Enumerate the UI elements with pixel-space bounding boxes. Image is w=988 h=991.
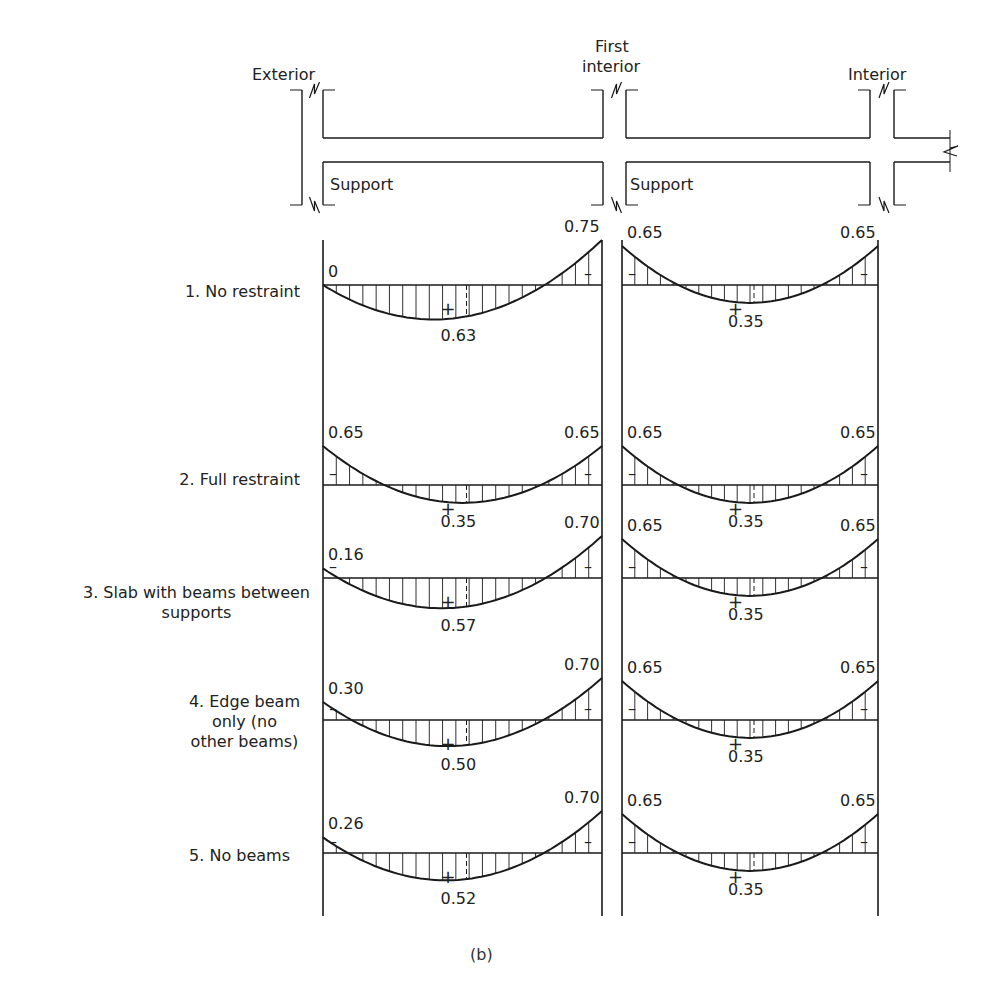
case-1-end-span-mid-value: 0.63	[441, 326, 477, 345]
break-symbol-icon	[944, 146, 958, 156]
case-3-end-span-end-value: 0.70	[564, 513, 600, 532]
negative-sign-icon: –	[628, 832, 636, 851]
moment-diagram-figure: ExteriorFirstinteriorInteriorSupportSupp…	[0, 0, 988, 991]
moment-diagram-svg: ExteriorFirstinteriorInteriorSupportSupp…	[0, 0, 988, 991]
case-1-interior-span-start-value: 0.65	[627, 223, 663, 242]
case-label-line: 4. Edge beam	[189, 692, 300, 712]
case-4-interior-span-mid-value: 0.35	[728, 747, 764, 766]
label-first-interior: interior	[582, 57, 641, 76]
case-1-diagram: +–00.750.63+––0.650.650.35	[323, 217, 878, 345]
negative-sign-icon: –	[329, 464, 337, 483]
positive-sign-icon: +	[441, 866, 456, 887]
case-5-end-span-end-value: 0.70	[564, 788, 600, 807]
negative-sign-icon: –	[584, 464, 592, 483]
case-3-interior-span-end-value: 0.65	[840, 516, 876, 535]
case-5-end-span-hatching	[336, 822, 588, 880]
case-3-interior-span-start-value: 0.65	[627, 516, 663, 535]
case-4-end-span-start-value: 0.30	[328, 679, 364, 698]
label-exterior: Exterior	[252, 65, 316, 84]
break-symbol-icon	[290, 82, 335, 98]
case-5-interior-span-start-value: 0.65	[627, 791, 663, 810]
case-label-line: only (no	[189, 712, 300, 732]
case-3-label: 3. Slab with beams betweensupports	[83, 583, 310, 623]
label-first-interior: First	[595, 37, 629, 56]
case-2-end-span-start-value: 0.65	[328, 423, 364, 442]
case-3-interior-span-mid-value: 0.35	[728, 605, 764, 624]
positive-sign-icon: +	[441, 298, 456, 319]
case-4-label: 4. Edge beamonly (noother beams)	[189, 692, 300, 752]
case-label-line: 2. Full restraint	[179, 470, 300, 490]
case-2-end-span-moment-curve	[323, 446, 602, 503]
case-4-end-span-moment-curve	[323, 678, 602, 746]
case-2-interior-span-end-value: 0.65	[840, 423, 876, 442]
negative-sign-icon: –	[628, 464, 636, 483]
case-1-interior-span-end-value: 0.65	[840, 223, 876, 242]
case-label-line: 3. Slab with beams between	[83, 583, 310, 603]
case-2-label: 2. Full restraint	[179, 470, 300, 490]
negative-sign-icon: –	[584, 699, 592, 718]
case-1-interior-span-mid-value: 0.35	[728, 312, 764, 331]
case-label-line: supports	[83, 603, 310, 623]
negative-sign-icon: –	[860, 557, 868, 576]
case-5-interior-span-mid-value: 0.35	[728, 880, 764, 899]
negative-sign-icon: –	[584, 832, 592, 851]
case-label-line: 1. No restraint	[185, 282, 300, 302]
case-2-end-span-mid-value: 0.35	[441, 512, 477, 531]
case-2-interior-span-mid-value: 0.35	[728, 512, 764, 531]
positive-sign-icon: +	[441, 733, 456, 754]
case-3-end-span-mid-value: 0.57	[441, 616, 477, 635]
moment-diagrams: +–00.750.63+––0.650.650.35+––0.650.650.3…	[323, 217, 878, 916]
label-interior: Interior	[848, 65, 907, 84]
break-symbol-icon	[591, 82, 638, 98]
case-4-end-span-end-value: 0.70	[564, 655, 600, 674]
negative-sign-icon: –	[628, 557, 636, 576]
positive-sign-icon: +	[441, 591, 456, 612]
break-symbol-icon	[858, 197, 906, 213]
case-5-end-span-start-value: 0.26	[328, 814, 364, 833]
case-1-end-span-start-value: 0	[328, 262, 338, 281]
case-4-interior-span-end-value: 0.65	[840, 658, 876, 677]
case-2-diagram: +––0.650.650.35+––0.650.650.35	[323, 423, 878, 531]
negative-sign-icon: –	[584, 264, 592, 283]
break-symbol-icon	[290, 197, 335, 213]
figure-caption: (b)	[470, 945, 493, 964]
negative-sign-icon: –	[628, 699, 636, 718]
case-2-interior-span-start-value: 0.65	[627, 423, 663, 442]
case-5-end-span-moment-curve	[323, 811, 602, 880]
case-4-interior-span-start-value: 0.65	[627, 658, 663, 677]
case-4-end-span-hatching	[336, 689, 588, 746]
negative-sign-icon: –	[860, 832, 868, 851]
case-4-diagram: +––0.300.700.50+––0.650.650.35	[323, 655, 878, 774]
negative-sign-icon: –	[628, 264, 636, 283]
case-1-end-span-moment-curve	[323, 240, 602, 319]
case-5-end-span-mid-value: 0.52	[441, 889, 477, 908]
case-label-line: other beams)	[189, 732, 300, 752]
case-5-diagram: +––0.260.700.52+––0.650.650.35	[323, 788, 878, 908]
case-5-label: 5. No beams	[189, 846, 290, 866]
negative-sign-icon: –	[329, 832, 337, 851]
break-symbol-icon	[591, 197, 638, 213]
case-5-interior-span-end-value: 0.65	[840, 791, 876, 810]
break-symbol-icon	[858, 82, 906, 98]
case-1-end-span-end-value: 0.75	[564, 217, 600, 236]
case-2-end-span-end-value: 0.65	[564, 423, 600, 442]
label-support: Support	[330, 175, 393, 194]
negative-sign-icon: –	[860, 464, 868, 483]
case-4-end-span-mid-value: 0.50	[441, 755, 477, 774]
case-1-label: 1. No restraint	[185, 282, 300, 302]
frame-elevation: ExteriorFirstinteriorInteriorSupportSupp…	[252, 37, 958, 213]
negative-sign-icon: –	[860, 264, 868, 283]
label-support: Support	[630, 175, 693, 194]
negative-sign-icon: –	[329, 699, 337, 718]
negative-sign-icon: –	[584, 557, 592, 576]
case-3-end-span-start-value: 0.16	[328, 545, 364, 564]
negative-sign-icon: –	[860, 699, 868, 718]
case-3-diagram: +––0.160.700.57+––0.650.650.35	[323, 513, 878, 635]
case-label-line: 5. No beams	[189, 846, 290, 866]
case-3-end-span-moment-curve	[323, 536, 602, 608]
